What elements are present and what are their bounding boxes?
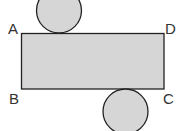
cylinder-net-diagram — [0, 0, 178, 131]
top-circle — [37, 0, 82, 33]
label-c: C — [163, 91, 174, 106]
label-a: A — [8, 21, 18, 36]
rectangle-abcd — [22, 34, 165, 90]
label-b: B — [9, 91, 19, 106]
bottom-circle — [103, 89, 148, 131]
label-d: D — [165, 21, 176, 36]
